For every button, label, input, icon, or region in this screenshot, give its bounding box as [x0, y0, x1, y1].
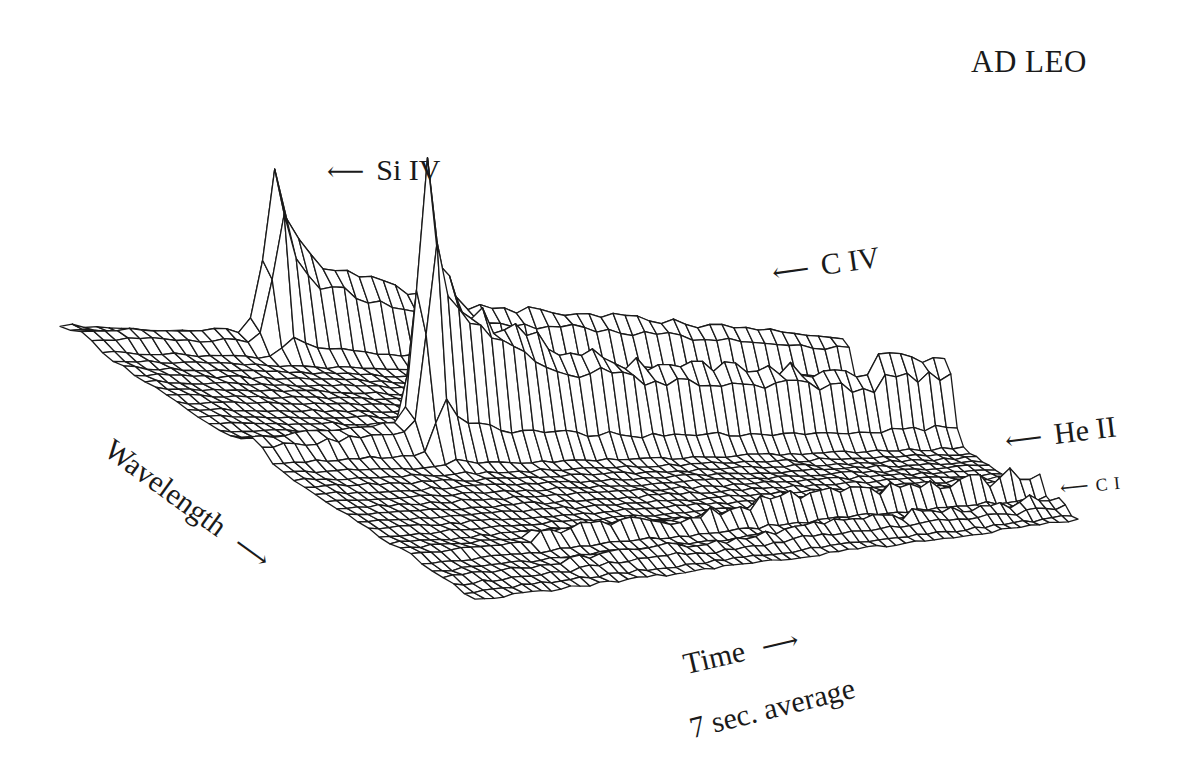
wireframe-surface-plot	[0, 0, 1191, 761]
left-arrow-icon: ⟵	[1003, 422, 1044, 457]
left-arrow-icon: ⟵	[1059, 473, 1091, 500]
left-arrow-icon: ⟵	[327, 156, 364, 187]
si-iv-label: ⟵Si IV	[327, 153, 440, 187]
figure-title: AD LEO	[971, 44, 1087, 80]
left-arrow-icon: ⟵	[770, 253, 811, 289]
